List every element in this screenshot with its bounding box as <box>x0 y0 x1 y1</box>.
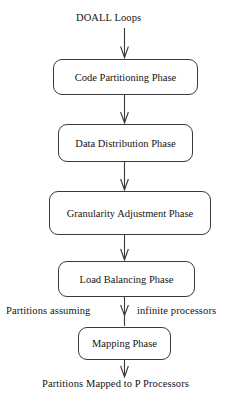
edge-annotation-right: infinite processors <box>137 305 216 316</box>
node-label-load-balancing-phase: Load Balancing Phase <box>80 274 174 285</box>
arrowhead-granularity-to-load-balancing <box>121 249 129 260</box>
node-code-partitioning-phase[interactable]: Code Partitioning Phase <box>53 59 198 95</box>
arrowhead-load-balancing-to-mapping <box>121 305 129 316</box>
node-label-granularity-adjustment-phase: Granularity Adjustment Phase <box>67 208 194 219</box>
arrowhead-code-partitioning-to-data-distribution <box>121 112 129 123</box>
arrowhead-input-to-code-partitioning <box>121 47 129 58</box>
arrowhead-mapping-to-output <box>121 366 129 377</box>
flowchart-diagram: DOALL Loops Code Partitioning Phase Data… <box>0 0 236 396</box>
node-label-code-partitioning-phase: Code Partitioning Phase <box>75 72 177 83</box>
node-mapping-phase[interactable]: Mapping Phase <box>78 327 171 360</box>
input-label: DOALL Loops <box>76 12 141 23</box>
edge-annotation-left: Partitions assuming <box>6 305 90 316</box>
node-data-distribution-phase[interactable]: Data Distribution Phase <box>58 124 193 162</box>
node-label-data-distribution-phase: Data Distribution Phase <box>75 138 175 149</box>
node-label-mapping-phase: Mapping Phase <box>92 338 157 349</box>
node-load-balancing-phase[interactable]: Load Balancing Phase <box>58 261 195 297</box>
node-granularity-adjustment-phase[interactable]: Granularity Adjustment Phase <box>49 191 211 235</box>
arrowhead-data-distribution-to-granularity <box>121 179 129 190</box>
output-label: Partitions Mapped to P Processors <box>42 378 189 389</box>
